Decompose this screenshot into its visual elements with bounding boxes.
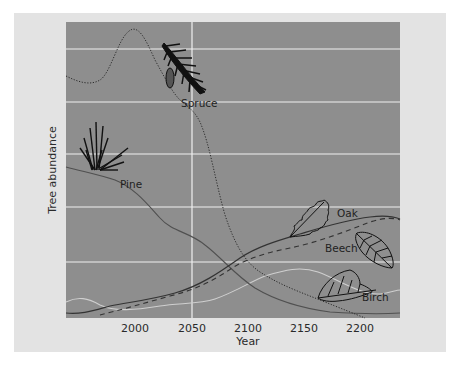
x-tick-2200: 2200 bbox=[346, 322, 374, 335]
birch-line bbox=[66, 269, 400, 310]
spruce-branch-icon bbox=[162, 43, 206, 94]
x-axis-label: Year bbox=[236, 335, 259, 348]
x-tick-2050: 2050 bbox=[178, 322, 206, 335]
beech-leaf-icon bbox=[356, 232, 394, 268]
label-pine: Pine bbox=[120, 178, 142, 190]
label-oak: Oak bbox=[337, 207, 358, 219]
x-tick-2100: 2100 bbox=[234, 322, 262, 335]
y-axis-label: Tree abundance bbox=[46, 126, 59, 214]
beech-line bbox=[100, 218, 400, 315]
x-tick-2150: 2150 bbox=[290, 322, 318, 335]
label-beech: Beech bbox=[325, 242, 358, 254]
label-spruce: Spruce bbox=[181, 97, 218, 109]
x-tick-2000: 2000 bbox=[121, 322, 149, 335]
label-birch: Birch bbox=[362, 291, 389, 303]
pine-needles-icon bbox=[80, 122, 128, 170]
chart-svg bbox=[0, 0, 460, 365]
